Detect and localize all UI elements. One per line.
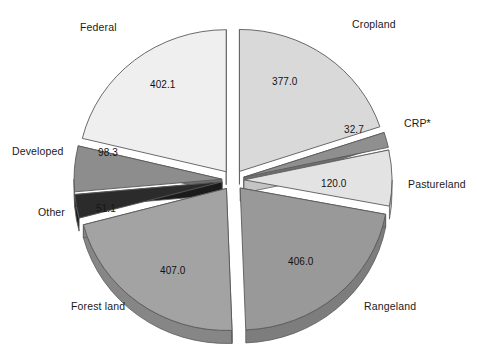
slice-label-other: Other: [38, 206, 65, 218]
slice-label-pastureland: Pastureland: [408, 178, 466, 190]
slice-label-forest-land: Forest land: [71, 300, 125, 312]
slice-label-developed: Developed: [12, 145, 64, 157]
slice-value-federal: 402.1: [150, 79, 176, 90]
slice-value-rangeland: 406.0: [288, 256, 314, 267]
slice-label-rangeland: Rangeland: [364, 300, 416, 312]
slice-value-cropland: 377.0: [272, 76, 298, 87]
slice-label-crp: CRP*: [404, 117, 431, 129]
slice-value-pastureland: 120.0: [321, 178, 347, 189]
slice-value-other: 51.1: [96, 203, 116, 214]
slice-label-cropland: Cropland: [352, 18, 396, 30]
slice-value-developed: 98.3: [98, 147, 118, 158]
slice-value-crp: 32.7: [344, 124, 364, 135]
slice-label-federal: Federal: [80, 21, 117, 33]
slice-value-forest-land: 407.0: [160, 265, 186, 276]
pie-chart: Cropland CRP* Pastureland Rangeland Fore…: [0, 0, 478, 354]
